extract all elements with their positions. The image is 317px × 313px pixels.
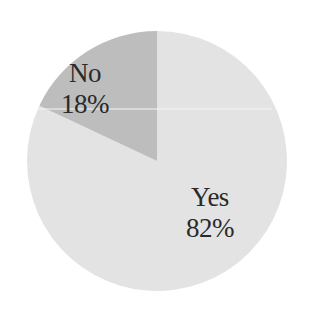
slice-percent-yes: 82% [175,213,245,244]
slice-label-no: No 18% [50,58,120,120]
slice-name-no: No [50,58,120,89]
slice-label-yes: Yes 82% [175,182,245,244]
pie-chart [0,0,317,313]
slice-name-yes: Yes [175,182,245,213]
slice-percent-no: 18% [50,89,120,120]
